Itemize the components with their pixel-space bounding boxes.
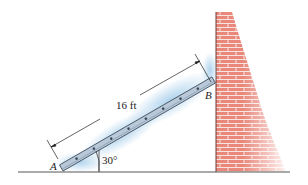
angle-label: 30° [102,154,117,166]
length-label: 16 ft [116,99,136,111]
brick-wall [216,12,291,174]
ladder-diagram: 16 ft 30° A B [0,0,308,185]
ladder [60,77,216,171]
point-a-label: A [49,160,57,172]
point-b-label: B [205,89,212,101]
